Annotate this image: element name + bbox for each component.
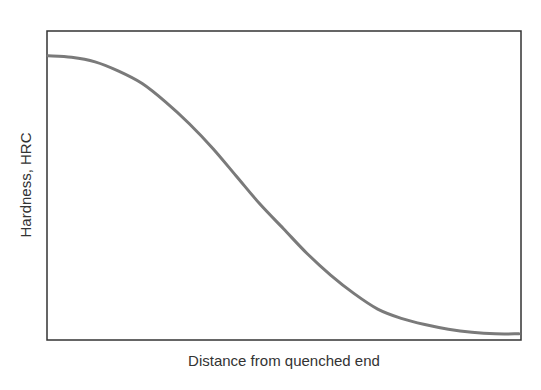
- hardness-curve: [48, 56, 519, 334]
- plot-frame: [47, 31, 521, 340]
- hardness-chart: Distance from quenched end Hardness, HRC: [0, 0, 541, 390]
- y-axis-label: Hardness, HRC: [17, 132, 34, 237]
- x-axis-label: Distance from quenched end: [188, 352, 380, 369]
